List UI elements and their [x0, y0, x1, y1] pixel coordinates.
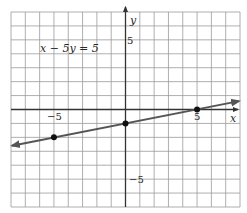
x-tick-label-neg5: −5 [47, 111, 62, 122]
coordinate-plane: x − 5y = 5 x y −5 5 5 −5 [0, 0, 247, 213]
point-marker [123, 120, 129, 126]
y-tick-label-5: 5 [127, 35, 133, 46]
x-tick-label-5: 5 [194, 111, 200, 122]
axes [11, 7, 238, 207]
point-marker [51, 134, 57, 140]
y-tick-label-neg5: −5 [129, 174, 144, 185]
equation-label: x − 5y = 5 [40, 42, 99, 55]
x-axis-label: x [230, 112, 237, 125]
y-axis-label: y [129, 14, 137, 27]
